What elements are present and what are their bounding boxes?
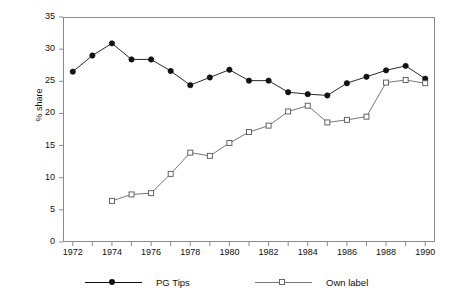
legend-swatch-own-label [255, 277, 312, 288]
x-tick-label-1974: 1974 [92, 247, 132, 257]
legend-item-pg-tips: PG Tips [85, 272, 190, 292]
x-tick-label-1972: 1972 [53, 247, 93, 257]
y-tick-label-15: 15 [33, 141, 55, 150]
y-tick-label-0: 0 [33, 237, 55, 246]
legend-label-pg-tips: PG Tips [156, 277, 190, 288]
open-square-icon [279, 278, 285, 285]
y-tick-label-5: 5 [33, 205, 55, 214]
x-tick-label-1990: 1990 [405, 247, 445, 257]
x-tick-label-1982: 1982 [249, 247, 289, 257]
y-tick-label-10: 10 [33, 173, 55, 182]
x-tick-label-1984: 1984 [288, 247, 328, 257]
chart-container: 05101520253035 % share 19721974197619781… [0, 0, 458, 303]
filled-circle-icon [109, 278, 115, 285]
x-tick-label-1988: 1988 [366, 247, 406, 257]
legend-label-own-label: Own label [326, 277, 368, 288]
y-tick-label-30: 30 [33, 44, 55, 53]
x-tick-label-1978: 1978 [170, 247, 210, 257]
plot-area [63, 17, 435, 242]
x-tick-label-1976: 1976 [131, 247, 171, 257]
legend-swatch-pg-tips [85, 277, 142, 288]
legend-item-own-label: Own label [255, 272, 368, 292]
y-tick-label-35: 35 [33, 12, 55, 21]
x-tick-label-1980: 1980 [209, 247, 249, 257]
x-tick-label-1986: 1986 [327, 247, 367, 257]
y-axis-title: % share [34, 75, 44, 135]
chart-legend: PG Tips Own label [63, 272, 435, 294]
